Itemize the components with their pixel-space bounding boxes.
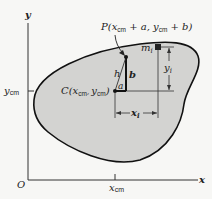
point-c bbox=[113, 89, 117, 93]
y-axis-label: y bbox=[24, 9, 32, 20]
segment-h-label: h bbox=[114, 68, 120, 79]
point-p-label: P(xcm + a, ycm + b) bbox=[100, 21, 192, 33]
center-of-mass-diagram: y x O ycm xcm yi xi h b a mi bbox=[0, 0, 212, 199]
rigid-body-outline bbox=[34, 42, 199, 162]
x-cm-label: xcm bbox=[109, 182, 124, 193]
segment-b-label: b bbox=[129, 69, 136, 80]
origin-label: O bbox=[17, 179, 25, 190]
segment-a-label: a bbox=[118, 81, 123, 91]
x-axis-label: x bbox=[198, 174, 206, 185]
y-cm-label: ycm bbox=[3, 85, 19, 96]
mass-element-square bbox=[155, 44, 161, 50]
